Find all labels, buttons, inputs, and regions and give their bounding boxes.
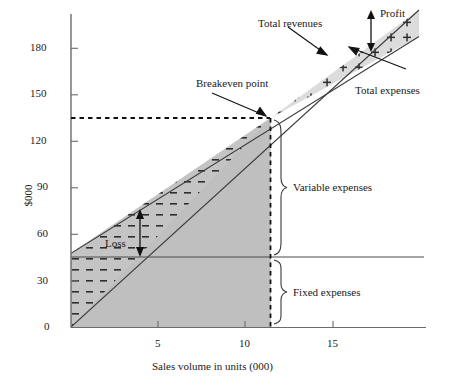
- profit-measure-arrow: [367, 10, 375, 52]
- profit-label: Profit: [380, 8, 405, 19]
- y-tick-label-180: 180: [30, 42, 47, 53]
- breakeven-chart: 180 150 120 90 60 30 0 5 10 15 $000 Sale…: [0, 0, 468, 388]
- y-axis-title: $000: [23, 166, 34, 226]
- variable-expenses-label: Variable expenses: [293, 182, 372, 193]
- y-axis-ticks: [71, 48, 78, 280]
- loss-label: Loss: [105, 238, 126, 249]
- y-tick-label-90: 90: [37, 181, 48, 192]
- x-tick-label-10: 10: [239, 338, 250, 349]
- total-expenses-label: Total expenses: [355, 85, 420, 96]
- x-tick-label-5: 5: [155, 338, 161, 349]
- x-axis-title: Sales volume in units (000): [152, 361, 273, 372]
- x-tick-label-15: 15: [327, 338, 338, 349]
- fixed-expenses-label: Fixed expenses: [293, 287, 361, 298]
- y-tick-label-120: 120: [30, 135, 47, 146]
- y-tick-label-0: 0: [44, 321, 50, 332]
- chart-canvas: [0, 0, 468, 388]
- y-tick-label-60: 60: [37, 228, 48, 239]
- breakeven-point-label: Breakeven point: [196, 78, 268, 89]
- y-tick-label-30: 30: [37, 275, 48, 286]
- annotation-arrows: [212, 27, 406, 116]
- brace-fixed-expenses: [274, 260, 287, 324]
- total-revenues-label: Total revenues: [258, 18, 322, 29]
- y-tick-label-150: 150: [30, 88, 47, 99]
